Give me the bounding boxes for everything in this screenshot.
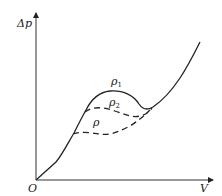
rho2-label: ρ2: [108, 96, 120, 110]
x-axis-label: V: [200, 182, 209, 195]
diagram-canvas: Δp V O ρ1 ρ2 ρ: [0, 0, 222, 196]
y-axis-label: Δp: [16, 17, 32, 30]
rho-label: ρ: [92, 116, 100, 129]
rho1-curve: [36, 42, 200, 180]
rho1-label: ρ1: [110, 75, 122, 89]
origin-label: O: [28, 182, 37, 195]
